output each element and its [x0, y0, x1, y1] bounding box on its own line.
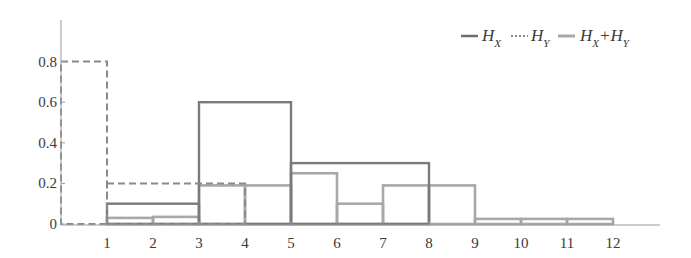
x-tick-label: 4	[241, 235, 249, 251]
x-tick-label: 1	[103, 235, 111, 251]
histogram-bin	[199, 185, 245, 224]
y-tick-label: 0.6	[38, 94, 57, 110]
series-h-x-h-y	[107, 173, 613, 224]
x-tick-label: 7	[379, 235, 387, 251]
legend-label-hx: HX	[481, 26, 502, 49]
x-tick-label: 9	[471, 235, 479, 251]
y-tick-label: 0.8	[38, 54, 57, 70]
histogram-bin	[521, 219, 567, 224]
histogram-bin	[245, 185, 291, 224]
legend-label-hy: HY	[530, 26, 551, 49]
x-tick-label: 6	[333, 235, 341, 251]
legend: HX HY HX+HY	[461, 26, 631, 49]
axes: 00.20.40.60.8123456789101112	[38, 20, 660, 251]
x-tick-label: 11	[560, 235, 574, 251]
x-tick-label: 10	[514, 235, 529, 251]
histogram-bin	[429, 185, 475, 224]
x-tick-label: 12	[606, 235, 621, 251]
histogram-bin	[337, 204, 383, 224]
x-tick-label: 3	[195, 235, 203, 251]
x-tick-label: 5	[287, 235, 295, 251]
histogram-bin	[383, 185, 429, 224]
y-tick-label: 0.2	[38, 175, 57, 191]
series-h-x	[107, 102, 429, 224]
legend-label-sum: HX+HY	[579, 26, 631, 49]
histogram-bin	[61, 62, 107, 224]
x-tick-label: 8	[425, 235, 433, 251]
y-tick-label: 0.4	[38, 135, 57, 151]
histogram-chart: 00.20.40.60.8123456789101112 HX HY HX+HY	[0, 0, 691, 258]
series-h-y	[61, 62, 245, 224]
x-tick-label: 2	[149, 235, 157, 251]
histogram-bin	[475, 219, 521, 224]
y-tick-label: 0	[50, 216, 58, 232]
histogram-bin	[567, 219, 613, 224]
plot-area	[61, 62, 613, 224]
histogram-bin	[291, 173, 337, 224]
